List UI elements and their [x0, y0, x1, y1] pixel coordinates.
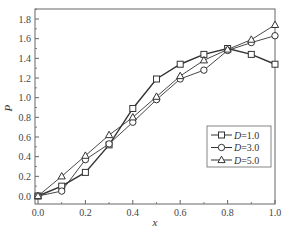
y-tick-label: 0.6	[19, 132, 32, 143]
y-tick-label: 1.4	[19, 53, 32, 64]
square-marker	[272, 61, 278, 67]
x-tick-label: 0.0	[32, 207, 45, 218]
circle-marker	[201, 67, 207, 73]
square-marker	[219, 132, 225, 138]
plot-area	[35, 9, 275, 204]
circle-marker	[59, 188, 65, 194]
circle-marker	[106, 141, 112, 147]
y-tick-label: 1.6	[19, 33, 32, 44]
circle-marker	[218, 144, 224, 150]
x-tick-label: 0.2	[79, 207, 92, 218]
y-tick-label: 0.8	[19, 112, 32, 123]
x-tick-label: 0.4	[127, 207, 140, 218]
x-tick-label: 1.0	[269, 207, 282, 218]
legend-label: D=3.0	[233, 142, 259, 153]
x-axis-label: x	[152, 216, 158, 228]
x-tick-label: 0.8	[221, 207, 234, 218]
square-marker	[177, 61, 183, 67]
y-tick-label: 1.8	[19, 14, 32, 25]
line-chart: 0.00.20.40.60.81.01.21.41.61.8 0.00.20.4…	[0, 0, 289, 231]
circle-marker	[272, 33, 278, 39]
square-marker	[154, 76, 160, 82]
y-axis-label: P	[2, 104, 14, 112]
x-tick-label: 0.6	[174, 207, 187, 218]
square-marker	[248, 51, 254, 57]
y-tick-label: 0.2	[19, 171, 32, 182]
y-tick-label: 1.2	[19, 73, 32, 84]
legend: D=1.0D=3.0D=5.0	[207, 126, 271, 167]
y-tick-label: 1.0	[19, 92, 32, 103]
y-tick-label: 0.0	[19, 191, 32, 202]
square-marker	[130, 105, 136, 111]
y-tick-label: 0.4	[19, 151, 32, 162]
legend-label: D=5.0	[233, 155, 259, 166]
legend-label: D=1.0	[233, 130, 259, 141]
square-marker	[82, 169, 88, 175]
